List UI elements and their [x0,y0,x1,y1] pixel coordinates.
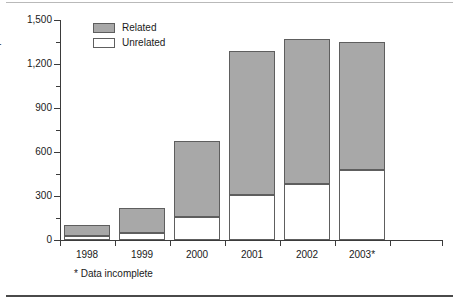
bar-segment-related-2001[interactable] [229,51,275,196]
bar-segment-unrelated-2002[interactable] [284,184,330,240]
y-axis-line [60,20,61,241]
bar-segment-unrelated-2003[interactable] [339,170,385,240]
bar-segment-unrelated-1998[interactable] [64,236,110,240]
x-tick-4 [280,240,281,246]
y-tick-900 [54,108,60,109]
y-tick-label-0: 0 [46,235,52,245]
legend-item-unrelated[interactable]: Unrelated [93,36,165,49]
y-tick-minor-450 [56,174,60,175]
chart-legend: Related Unrelated [93,21,165,51]
y-tick-1500 [54,20,60,21]
y-tick-minor-1050 [56,86,60,87]
x-axis-line [60,240,443,241]
y-tick-label-900: 900 [35,103,52,113]
y-tick-label-1200: 1,200 [27,59,52,69]
legend-swatch-unrelated-icon [93,38,115,48]
x-tick-0 [60,240,61,246]
legend-label-related: Related [122,22,156,34]
bottom-divider-rule [6,295,453,297]
bar-segment-related-2000[interactable] [174,141,220,217]
bar-segment-related-1999[interactable] [119,208,165,233]
plot-area: 1998 1999 2000 2001 2002 2003* [60,20,443,240]
bar-segment-unrelated-1999[interactable] [119,233,165,240]
x-tick-1 [115,240,116,246]
bar-segment-related-1998[interactable] [64,225,110,235]
bar-segment-related-2003[interactable] [339,42,385,170]
x-tick-5 [335,240,336,246]
y-tick-1200 [54,64,60,65]
y-tick-minor-750 [56,130,60,131]
x-tick-3 [225,240,226,246]
x-tick-2 [170,240,171,246]
y-tick-600 [54,152,60,153]
bar-segment-unrelated-2000[interactable] [174,217,220,241]
chart-footnote: * Data incomplete [74,268,153,279]
y-tick-minor-1350 [56,42,60,43]
y-tick-300 [54,196,60,197]
y-tick-label-1500: 1,500 [27,15,52,25]
bar-segment-related-2002[interactable] [284,39,330,184]
bar-segment-unrelated-2001[interactable] [229,195,275,240]
chart-figure: 1,500 1,200 900 600 300 0 Transplants [0,0,459,305]
y-axis-labels: 1,500 1,200 900 600 300 0 [0,20,52,241]
y-tick-minor-150 [56,218,60,219]
x-tick-label-2003: 2003* [327,249,397,260]
y-axis-title: Transplants [0,0,1,105]
x-tick-7 [442,240,443,246]
legend-label-unrelated: Unrelated [122,37,165,49]
x-tick-6 [390,240,391,246]
legend-item-related[interactable]: Related [93,21,165,34]
y-tick-label-300: 300 [35,191,52,201]
y-tick-label-600: 600 [35,147,52,157]
top-divider-rule [6,2,453,3]
legend-swatch-related-icon [93,23,115,33]
